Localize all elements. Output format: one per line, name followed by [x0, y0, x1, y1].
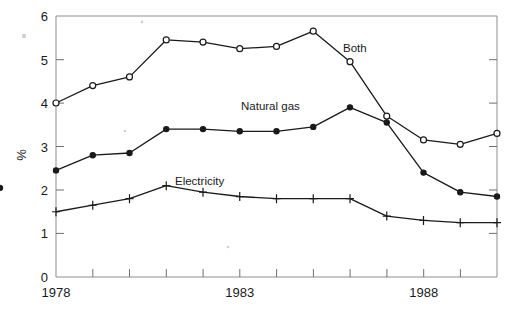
data-point-marker [309, 194, 317, 203]
data-point-marker [311, 124, 316, 129]
plot-frame [56, 16, 497, 277]
data-point-marker [347, 105, 352, 110]
x-tick-label-1978: 1978 [42, 285, 71, 300]
data-point-marker [52, 207, 60, 216]
series-label-natural-gas: Natural gas [241, 100, 300, 112]
data-point-marker [384, 113, 390, 119]
data-point-marker [0, 185, 3, 190]
data-point-marker [273, 194, 281, 203]
y-tick-label-5: 5 [41, 53, 48, 68]
scan-speck-mid [124, 130, 127, 133]
y-tick-label-1: 1 [41, 226, 48, 241]
data-point-marker [494, 194, 499, 199]
y-tick-label-2: 2 [41, 183, 48, 198]
data-point-marker [420, 216, 428, 225]
data-point-marker [200, 39, 206, 45]
y-tick-label-3: 3 [41, 140, 48, 155]
series-natural-gas [0, 105, 500, 199]
y-axis-title: % [14, 149, 29, 161]
data-point-marker [163, 37, 169, 43]
data-point-marker [421, 170, 426, 175]
data-point-marker [127, 150, 132, 155]
data-point-marker [199, 188, 207, 197]
data-point-marker [494, 130, 500, 136]
x-axis-tick-labels: 1978 1983 1988 [42, 285, 439, 300]
data-point-marker [200, 127, 205, 132]
x-axis-ticks [93, 269, 461, 277]
data-point-marker [90, 153, 95, 158]
data-point-marker [237, 129, 242, 134]
line-chart-figure: 6 5 4 3 2 1 0 1978 1983 1988 % Both Natu… [0, 0, 513, 318]
scan-speck-low [227, 246, 230, 249]
data-point-marker [457, 141, 463, 147]
series-electricity [52, 181, 501, 227]
y-axis-tick-labels: 6 5 4 3 2 1 0 [41, 9, 48, 285]
scan-speck-left [22, 34, 26, 38]
y-axis-ticks [56, 60, 497, 234]
data-point-marker [127, 74, 133, 80]
data-point-marker [237, 46, 243, 52]
x-tick-label-1983: 1983 [225, 285, 254, 300]
series-line [56, 107, 497, 196]
data-point-marker [236, 192, 244, 201]
y-tick-label-0: 0 [41, 270, 48, 285]
data-point-marker [89, 201, 97, 210]
scan-artifacts [22, 21, 230, 249]
data-series-layer [0, 28, 501, 227]
y-tick-label-4: 4 [41, 96, 48, 111]
data-point-marker [347, 59, 353, 65]
data-point-marker [90, 83, 96, 89]
data-point-marker [274, 129, 279, 134]
series-line [56, 186, 497, 223]
data-point-marker [421, 137, 427, 143]
data-point-marker [346, 194, 354, 203]
series-label-electricity: Electricity [175, 175, 224, 187]
x-tick-label-1988: 1988 [409, 285, 438, 300]
data-point-marker [383, 212, 391, 221]
scan-speck-top [141, 21, 144, 24]
data-point-marker [53, 100, 59, 106]
data-point-marker [126, 194, 134, 203]
data-point-marker [458, 190, 463, 195]
data-point-marker [493, 218, 501, 227]
data-point-marker [164, 127, 169, 132]
data-point-marker [162, 181, 170, 190]
chart-canvas: 6 5 4 3 2 1 0 1978 1983 1988 % Both Natu… [0, 0, 513, 318]
series-label-both: Both [343, 42, 367, 54]
data-point-marker [384, 120, 389, 125]
data-point-marker [310, 28, 316, 34]
data-point-marker [274, 43, 280, 49]
data-point-marker [53, 168, 58, 173]
data-point-marker [456, 218, 464, 227]
y-tick-label-6: 6 [41, 9, 48, 24]
